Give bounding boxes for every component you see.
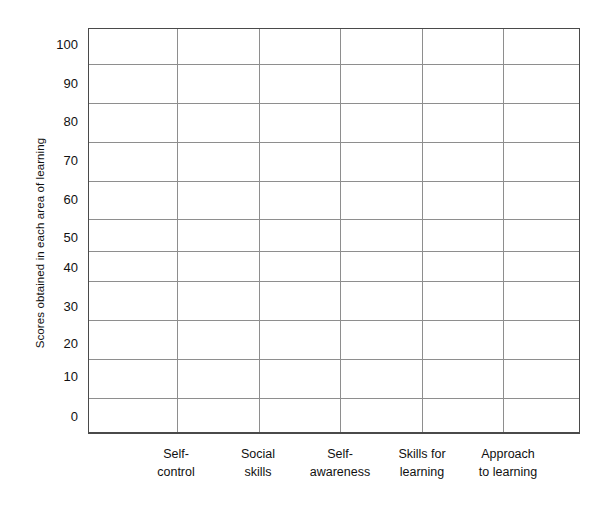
chart-container: Scores obtained in each area of learning… — [0, 0, 612, 509]
x-category-line1: Self- — [134, 446, 218, 464]
x-category-line2: control — [134, 464, 218, 482]
gridline-h-35 — [89, 281, 579, 282]
x-category-label-skills-for-learning: Skills for learning — [379, 446, 465, 481]
gridline-v-4 — [422, 29, 423, 432]
x-category-line1: Self- — [297, 446, 383, 464]
gridline-v-1 — [177, 29, 178, 432]
x-category-line1: Approach — [461, 446, 555, 464]
x-category-line2: learning — [379, 464, 465, 482]
y-tick-label-10: 10 — [8, 370, 78, 383]
x-category-label-self-awareness: Self- awareness — [297, 446, 383, 481]
y-tick-label-90: 90 — [8, 77, 78, 90]
x-category-line1: Skills for — [379, 446, 465, 464]
gridline-v-2 — [259, 29, 260, 432]
x-category-line2: skills — [216, 464, 300, 482]
x-category-label-social-skills: Social skills — [216, 446, 300, 481]
y-tick-label-100: 100 — [8, 38, 78, 51]
x-category-label-approach-to-learning: Approach to learning — [461, 446, 555, 481]
gridline-h-75 — [89, 142, 579, 143]
y-tick-label-60: 60 — [8, 193, 78, 206]
gridline-h-85 — [89, 103, 579, 104]
gridline-h-5 — [89, 398, 579, 399]
x-category-label-self-control: Self- control — [134, 446, 218, 481]
y-tick-label-20: 20 — [8, 337, 78, 350]
gridline-h-45 — [89, 251, 579, 252]
gridline-h-95 — [89, 64, 579, 65]
x-category-line1: Social — [216, 446, 300, 464]
gridline-v-3 — [340, 29, 341, 432]
plot-area — [88, 28, 580, 434]
x-category-line2: to learning — [461, 464, 555, 482]
gridline-h-15 — [89, 359, 579, 360]
y-tick-label-30: 30 — [8, 300, 78, 313]
gridline-h-65 — [89, 181, 579, 182]
gridline-v-5 — [503, 29, 504, 432]
y-tick-label-0: 0 — [8, 410, 78, 423]
y-tick-label-80: 80 — [8, 115, 78, 128]
y-tick-label-50: 50 — [8, 231, 78, 244]
x-category-line2: awareness — [297, 464, 383, 482]
y-tick-label-70: 70 — [8, 154, 78, 167]
gridline-h-25 — [89, 320, 579, 321]
y-tick-label-40: 40 — [8, 261, 78, 274]
gridline-h-55 — [89, 219, 579, 220]
